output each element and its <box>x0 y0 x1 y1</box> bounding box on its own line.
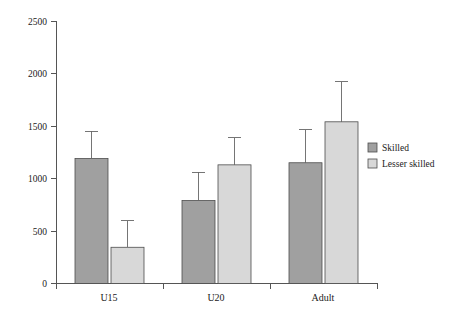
y-tick-label-2500: 2500 <box>28 17 47 27</box>
x-tick-label-u20: U20 <box>207 292 224 303</box>
y-tick-label-1000: 1000 <box>28 174 47 184</box>
bar-u20-lesser-skilled[interactable] <box>218 165 251 284</box>
chart-container: 2500 2000 1500 1000 500 0 <box>0 0 453 315</box>
legend-label-skilled: Skilled <box>382 143 409 153</box>
x-tick-label-u15: U15 <box>100 292 117 303</box>
bar-adult-skilled[interactable] <box>289 163 322 284</box>
bar-chart: 2500 2000 1500 1000 500 0 <box>0 0 453 315</box>
y-tick-label-0: 0 <box>42 279 47 289</box>
bar-u15-skilled[interactable] <box>75 159 108 284</box>
legend-item-skilled[interactable]: Skilled <box>368 143 409 153</box>
legend-swatch-skilled <box>368 143 377 152</box>
bar-u15-lesser-skilled[interactable] <box>111 247 144 283</box>
y-tick-label-1500: 1500 <box>28 122 47 132</box>
bar-u20-skilled[interactable] <box>182 201 215 284</box>
bar-adult-lesser-skilled[interactable] <box>325 122 358 284</box>
x-tick-label-adult: Adult <box>312 292 335 303</box>
y-tick-label-500: 500 <box>33 227 48 237</box>
legend-label-lesser-skilled: Lesser skilled <box>382 159 435 169</box>
y-tick-label-2000: 2000 <box>28 69 47 79</box>
legend-swatch-lesser-skilled <box>368 159 377 168</box>
